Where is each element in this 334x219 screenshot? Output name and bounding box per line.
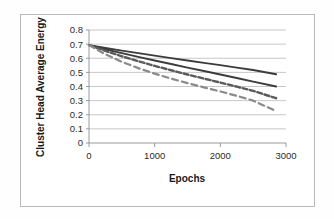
- data-series-group: [89, 45, 276, 111]
- y-tick-label: 0: [78, 137, 83, 148]
- x-tick-label: 3000: [275, 150, 296, 161]
- series-line-2: [89, 45, 276, 86]
- x-axis-title: Epochs: [169, 173, 206, 184]
- y-tick-label: 0.4: [70, 81, 83, 92]
- y-tick-label: 0.5: [70, 67, 83, 78]
- x-tick-label: 2000: [210, 150, 231, 161]
- y-tick-label: 0.7: [70, 39, 83, 50]
- y-tick-labels-group: 00.10.20.30.40.50.60.70.8: [70, 24, 83, 148]
- y-tick-label: 0.1: [70, 123, 83, 134]
- y-tick-label: 0.6: [70, 53, 83, 64]
- line-chart: 00.10.20.30.40.50.60.70.8 0100020003000 …: [0, 0, 334, 219]
- x-tick-label: 1000: [144, 150, 165, 161]
- y-tick-label: 0.8: [70, 24, 83, 35]
- series-line-3: [89, 45, 276, 98]
- y-tick-label: 0.3: [70, 95, 83, 106]
- tickmarks-group: [86, 30, 286, 147]
- y-tick-label: 0.2: [70, 109, 83, 120]
- gridlines-group: [89, 30, 286, 129]
- x-tick-labels-group: 0100020003000: [86, 150, 296, 161]
- x-tick-label: 0: [86, 150, 91, 161]
- y-axis-title: Cluster Head Average Energy: [35, 17, 46, 157]
